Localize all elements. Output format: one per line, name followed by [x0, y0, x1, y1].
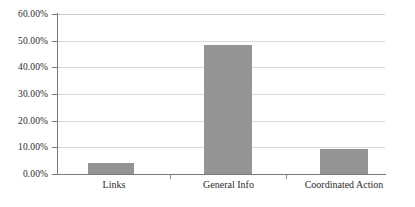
bar-chart: 60.00% 50.00% 40.00% 30.00% 20.00% 10.00… — [0, 0, 415, 207]
y-axis-label-0: 0.00% — [0, 170, 48, 180]
y-axis-label-30: 30.00% — [0, 90, 48, 100]
x-axis-label-coordinated-action: Coordinated Action — [287, 180, 401, 190]
bar-coordinated-action — [320, 149, 368, 174]
bar-links — [88, 163, 134, 174]
x-axis-label-links: Links — [58, 180, 170, 190]
y-tick-40 — [52, 67, 57, 68]
x-tick-boundary-2 — [286, 175, 287, 179]
y-axis-label-40: 40.00% — [0, 63, 48, 73]
gridline-60 — [57, 14, 385, 15]
x-axis-label-general-info: General Info — [171, 180, 286, 190]
plot-area — [57, 14, 385, 174]
bar-general-info — [204, 45, 252, 174]
y-tick-50 — [52, 41, 57, 42]
y-axis-label-20: 20.00% — [0, 117, 48, 127]
y-axis-label-60: 60.00% — [0, 10, 48, 20]
x-axis-line — [57, 174, 386, 175]
y-axis-label-10: 10.00% — [0, 143, 48, 153]
y-axis-line — [57, 13, 58, 175]
y-tick-60 — [52, 14, 57, 15]
y-tick-30 — [52, 94, 57, 95]
y-tick-20 — [52, 121, 57, 122]
y-axis-label-50: 50.00% — [0, 37, 48, 47]
y-tick-0 — [52, 174, 57, 175]
y-tick-10 — [52, 147, 57, 148]
gridline-50 — [57, 41, 385, 42]
x-tick-boundary-1 — [170, 175, 171, 179]
